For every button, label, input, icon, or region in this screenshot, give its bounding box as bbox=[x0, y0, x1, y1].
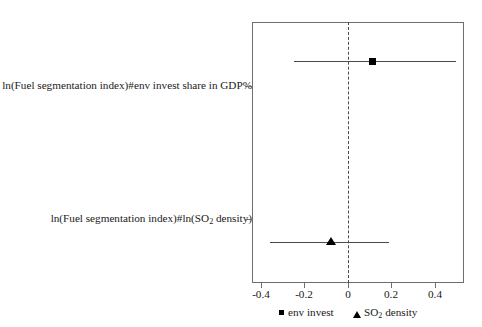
point-estimate-marker-so2-density bbox=[326, 237, 336, 245]
x-axis-tick-label-2: 0 bbox=[345, 288, 351, 301]
category-label-row-1-prefix: ln(Fuel segmentation index)#ln(SO bbox=[51, 212, 209, 224]
legend-label-so2-suffix: density bbox=[382, 306, 417, 318]
x-axis-tick-label-3: 0.2 bbox=[384, 288, 398, 301]
legend-label-so2-density: SO2 density bbox=[364, 305, 417, 321]
x-axis-tick-label-0: -0.4 bbox=[252, 288, 270, 301]
square-marker-icon bbox=[279, 310, 284, 315]
legend: env invest SO2 density bbox=[252, 305, 464, 321]
coefficient-plot-figure: ln(Fuel segmentation index)#env invest s… bbox=[0, 0, 482, 327]
point-estimate-marker-env-invest bbox=[369, 58, 376, 65]
x-axis-tick-label-1: -0.2 bbox=[295, 288, 313, 301]
legend-label-so2-subscript: 2 bbox=[378, 311, 382, 320]
legend-entry-env-invest: env invest bbox=[279, 305, 334, 319]
category-tick-row-0 bbox=[245, 86, 252, 87]
category-label-row-1: ln(Fuel segmentation index)#ln(SO2 densi… bbox=[51, 212, 252, 226]
legend-label-env-invest: env invest bbox=[288, 305, 334, 319]
triangle-marker-icon bbox=[353, 311, 361, 318]
category-label-row-1-suffix: density) bbox=[213, 212, 252, 224]
category-tick-row-1 bbox=[245, 219, 252, 220]
category-label-row-1-subscript: 2 bbox=[209, 217, 213, 226]
legend-entry-so2-density: SO2 density bbox=[353, 305, 417, 321]
x-axis-tick-label-4: 0.4 bbox=[428, 288, 442, 301]
category-label-row-0: ln(Fuel segmentation index)#env invest s… bbox=[2, 79, 252, 92]
legend-label-so2-prefix: SO bbox=[364, 306, 378, 318]
